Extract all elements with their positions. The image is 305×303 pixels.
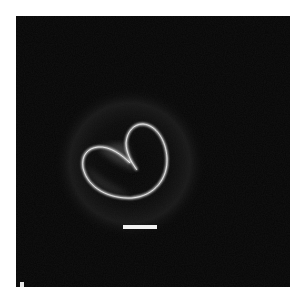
corner-mark [20,282,24,287]
micrograph-panel [16,16,290,287]
cell-image [16,16,290,287]
scale-bar [123,225,157,229]
